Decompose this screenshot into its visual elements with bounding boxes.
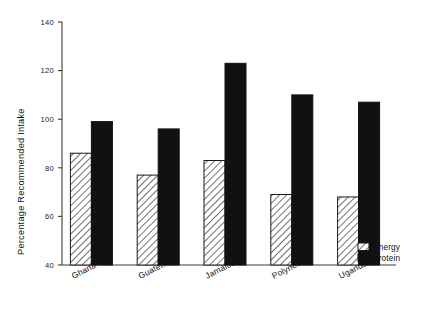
y-tick-label: 120 xyxy=(40,66,54,75)
legend-label-energy: Energy xyxy=(373,243,401,252)
y-tick-label: 80 xyxy=(45,164,54,173)
bar-protein-uganda xyxy=(359,102,380,265)
bar-energy-jamaica xyxy=(204,161,225,265)
y-axis-title: Percentage Recommended Intake xyxy=(16,108,26,255)
y-tick-label: 40 xyxy=(45,261,54,270)
y-tick-label: 60 xyxy=(45,212,54,221)
bars-group xyxy=(70,63,379,265)
bar-protein-guatemala xyxy=(158,129,179,265)
bar-energy-guatemala xyxy=(137,175,158,265)
y-tick-group: 406080100120140 xyxy=(40,18,62,270)
bar-protein-jamaica xyxy=(225,63,246,265)
bar-protein-polynesia xyxy=(292,95,313,265)
y-axis-title-group: Percentage Recommended Intake xyxy=(16,108,26,255)
bar-energy-polynesia xyxy=(271,195,292,265)
y-axis: 406080100120140 xyxy=(40,18,62,270)
legend-swatch-protein xyxy=(358,254,369,262)
bar-energy-uganda xyxy=(338,197,359,265)
y-tick-label: 100 xyxy=(40,115,54,124)
bar-chart: Percentage Recommended Intake 4060801001… xyxy=(0,0,434,311)
bar-energy-ghana xyxy=(70,153,91,265)
chart-canvas: Percentage Recommended Intake 4060801001… xyxy=(0,0,434,311)
y-tick-label: 140 xyxy=(40,18,54,27)
legend-label-protein: Protein xyxy=(373,254,401,263)
legend-swatch-energy xyxy=(358,243,369,251)
bar-protein-ghana xyxy=(91,122,112,265)
